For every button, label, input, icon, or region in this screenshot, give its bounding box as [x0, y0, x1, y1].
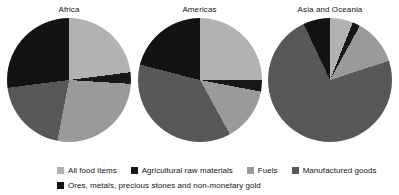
pie-africa[interactable] — [7, 18, 131, 142]
legend-label-ores-metals-precious-stones: Ores, metals, precious stones and non-mo… — [68, 181, 261, 191]
legend-item-ores-metals-precious-stones[interactable]: Ores, metals, precious stones and non-mo… — [57, 181, 261, 191]
legend-item-agricultural-raw-materials[interactable]: Agricultural raw materials — [131, 166, 233, 176]
legend-swatch-icon-agricultural-raw-materials — [131, 167, 138, 174]
legend-item-manufactured-goods[interactable]: Manufactured goods — [292, 166, 377, 176]
legend-label-all-food-items: All food items — [68, 166, 117, 176]
legend-item-all-food-items[interactable]: All food items — [57, 166, 117, 176]
legend-item-fuels[interactable]: Fuels — [247, 166, 278, 176]
legend-swatch-icon-ores-metals-precious-stones — [57, 182, 64, 189]
pie-panel-asia-and-oceania: Asia and Oceania — [265, 4, 395, 142]
pie-panels-container: Africa Americas Asia and Oceania — [0, 0, 399, 156]
pie-wrap-americas — [138, 18, 262, 142]
pie-asia-and-oceania[interactable] — [268, 18, 392, 142]
legend-row-2: Ores, metals, precious stones and non-mo… — [6, 178, 393, 193]
pie-wrap-africa — [7, 18, 131, 142]
legend-row-1: All food items Agricultural raw material… — [6, 163, 393, 178]
legend-label-agricultural-raw-materials: Agricultural raw materials — [142, 166, 233, 176]
legend-swatch-icon-fuels — [247, 167, 254, 174]
legend-label-manufactured-goods: Manufactured goods — [303, 166, 377, 176]
legend-swatch-icon-manufactured-goods — [292, 167, 299, 174]
pie-americas[interactable] — [138, 18, 262, 142]
pie-wrap-asia-and-oceania — [268, 18, 392, 142]
legend-label-fuels: Fuels — [258, 166, 278, 176]
pie-chart-figure: Africa Americas Asia and Oceania All foo… — [0, 0, 399, 195]
panel-title-asia-and-oceania: Asia and Oceania — [298, 4, 363, 15]
legend-swatch-icon-all-food-items — [57, 167, 64, 174]
panel-title-africa: Africa — [58, 4, 79, 15]
chart-legend: All food items Agricultural raw material… — [0, 163, 399, 193]
pie-panel-africa: Africa — [4, 4, 134, 142]
pie-panel-americas: Americas — [135, 4, 265, 142]
panel-title-americas: Americas — [182, 4, 216, 15]
